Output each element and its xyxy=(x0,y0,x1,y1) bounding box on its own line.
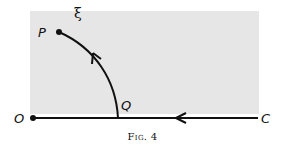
point-p xyxy=(56,29,62,35)
point-o xyxy=(30,115,36,121)
arrow-up-icon xyxy=(92,53,101,64)
arc-qp xyxy=(59,32,118,118)
label-p: P xyxy=(38,26,46,39)
label-xi: ξ xyxy=(74,6,82,20)
diagram-canvas xyxy=(0,0,285,152)
label-c: C xyxy=(261,112,270,125)
figure-caption: Fig. 4 xyxy=(0,131,285,142)
label-q: Q xyxy=(121,99,131,112)
label-o: O xyxy=(14,112,24,125)
